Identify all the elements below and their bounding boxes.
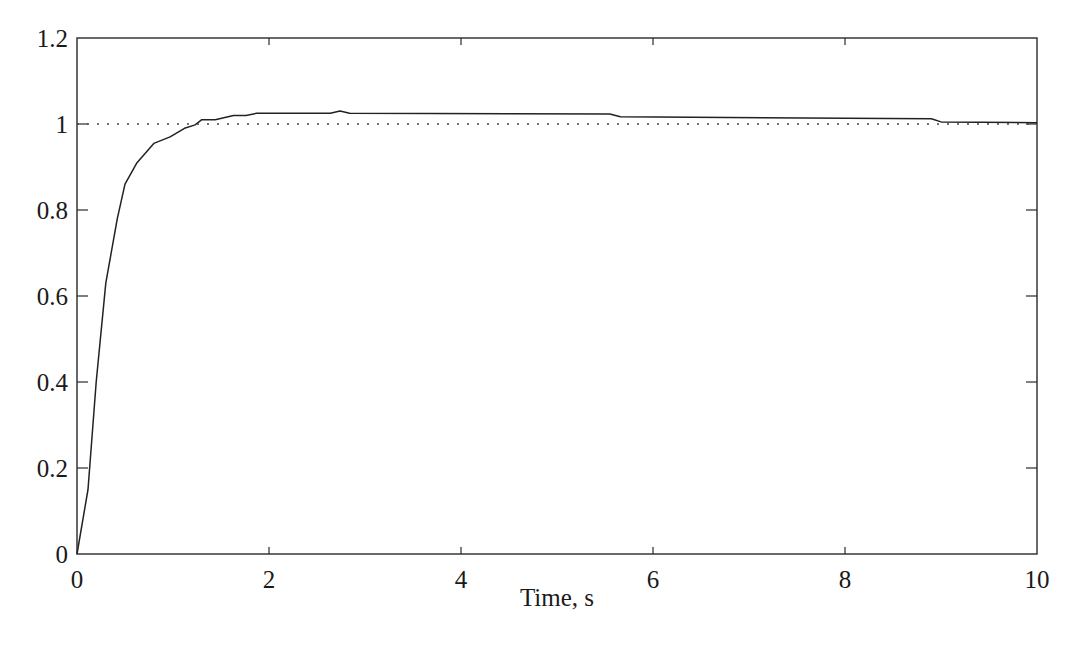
y-tick-label: 1.2 xyxy=(37,25,68,52)
chart-background xyxy=(0,0,1071,664)
y-tick-label: 0.8 xyxy=(37,197,68,224)
step-response-chart: 00.20.40.60.811.2 0246810 Time, s xyxy=(0,0,1071,664)
y-tick-label: 0.4 xyxy=(37,369,69,396)
y-tick-label: 1 xyxy=(56,111,69,138)
y-tick-label: 0 xyxy=(56,541,69,568)
x-axis-title: Time, s xyxy=(520,584,594,611)
x-tick-label: 4 xyxy=(455,566,468,593)
x-tick-label: 2 xyxy=(263,566,276,593)
x-tick-label: 6 xyxy=(647,566,660,593)
y-tick-label: 0.2 xyxy=(37,455,68,482)
y-tick-label: 0.6 xyxy=(37,283,68,310)
x-tick-label: 8 xyxy=(839,566,852,593)
x-tick-label: 10 xyxy=(1025,566,1050,593)
x-tick-label: 0 xyxy=(71,566,84,593)
